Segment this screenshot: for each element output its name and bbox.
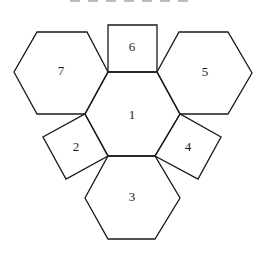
face-label: 6 (129, 39, 136, 54)
face-label: 4 (185, 139, 192, 154)
face-label: 2 (73, 139, 80, 154)
face-1-hexagon: 1 (85, 72, 180, 156)
face-3-hexagon: 3 (85, 156, 180, 239)
face-7-hexagon: 7 (14, 32, 108, 114)
face-label: 5 (202, 64, 209, 79)
face-label: 3 (129, 189, 136, 204)
face-label: 1 (129, 107, 136, 122)
face-5-hexagon: 5 (157, 32, 252, 114)
face-label: 7 (58, 63, 65, 78)
face-2-square: 2 (43, 114, 108, 179)
face-6-square: 6 (108, 25, 157, 72)
net-diagram: 1234567 (0, 0, 262, 256)
cropped-top-text (70, 0, 188, 2)
face-4-square: 4 (155, 114, 221, 179)
